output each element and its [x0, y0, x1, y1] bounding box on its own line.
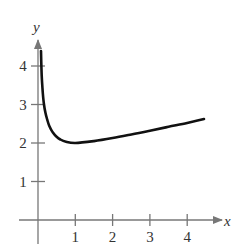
data-curve [41, 51, 204, 143]
y-tick-label: 1 [19, 174, 27, 190]
y-tick-label: 2 [19, 135, 27, 151]
x-tick-label: 3 [146, 229, 154, 245]
ticks: 12341234 [19, 58, 191, 245]
x-axis-label: x [223, 213, 231, 229]
x-tick-label: 1 [72, 229, 80, 245]
y-tick-label: 4 [19, 58, 27, 74]
chart-plot: 12341234 x y [0, 0, 237, 250]
x-tick-label: 4 [183, 229, 191, 245]
y-axis-label: y [31, 19, 40, 35]
y-tick-label: 3 [19, 97, 27, 113]
axes [19, 40, 222, 244]
x-tick-label: 2 [109, 229, 117, 245]
